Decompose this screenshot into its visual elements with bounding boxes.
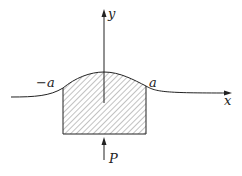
neg-a-label: −a: [36, 75, 55, 90]
x-axis-label: x: [224, 93, 232, 108]
punch-indentation-diagram: y x −a a P: [0, 0, 242, 176]
pos-a-label: a: [149, 75, 157, 90]
surface-curve-right: [146, 86, 228, 93]
force-arrow-head-icon: [102, 137, 107, 145]
y-axis-arrow-icon: [102, 9, 107, 17]
force-label: P: [108, 151, 118, 166]
y-axis-label: y: [107, 6, 116, 21]
